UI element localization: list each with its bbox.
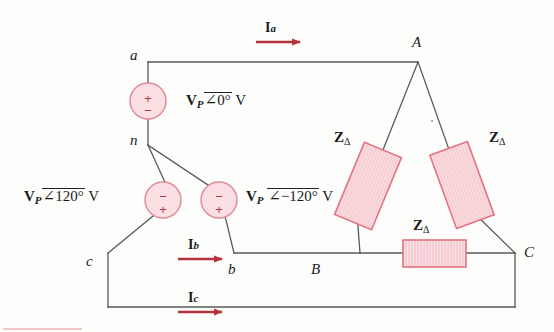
circuit-schematic-svg bbox=[0, 0, 554, 332]
wire-source-b-to-b bbox=[224, 212, 234, 253]
source-a-bottom-sign: − bbox=[141, 104, 155, 117]
source-b-value-label: VP ∠−120° V bbox=[246, 188, 333, 206]
source-a-sub: P bbox=[197, 98, 204, 110]
source-c-bottom-sign: + bbox=[156, 203, 170, 216]
source-b-angle: −120° bbox=[281, 188, 318, 204]
wire-A-to-Zca bbox=[418, 62, 452, 158]
source-b-v: V bbox=[246, 188, 257, 204]
z-delta-ab-label: ZΔ bbox=[334, 130, 350, 147]
current-c-sub: c bbox=[193, 292, 198, 304]
source-a-unit: V bbox=[235, 92, 246, 108]
vertex-label-A: A bbox=[412, 35, 421, 50]
source-b-unit: V bbox=[322, 188, 333, 204]
z-delta-bc-sub: Δ bbox=[423, 224, 429, 235]
node-label-a: a bbox=[130, 48, 138, 63]
current-b-sub: b bbox=[193, 239, 199, 251]
source-b-sub: P bbox=[257, 194, 264, 206]
vertex-label-B: B bbox=[311, 262, 320, 277]
source-c-v: V bbox=[24, 188, 35, 204]
z-delta-ca-sub: Δ bbox=[499, 136, 505, 147]
source-a-angle: 0° bbox=[217, 92, 231, 108]
z-delta-ab-symbol: Z bbox=[334, 129, 344, 145]
source-c-angle-glyph: ∠ bbox=[43, 188, 56, 204]
z-delta-ab-box[interactable] bbox=[335, 142, 402, 229]
stray-dot bbox=[431, 120, 433, 122]
source-b-angle-glyph: ∠ bbox=[268, 188, 281, 204]
z-delta-ca-symbol: Z bbox=[489, 129, 499, 145]
wire-A-to-Zab bbox=[379, 62, 418, 160]
source-b-bottom-sign: + bbox=[212, 203, 226, 216]
vertex-label-C: C bbox=[524, 245, 534, 260]
z-delta-ab-sub: Δ bbox=[344, 136, 350, 147]
source-a-angle-glyph: ∠ bbox=[205, 92, 218, 108]
z-delta-ca-label: ZΔ bbox=[489, 130, 505, 147]
current-c-label: Ic bbox=[188, 291, 198, 305]
node-label-b: b bbox=[228, 262, 236, 277]
source-c-angle: 120° bbox=[55, 188, 84, 204]
z-delta-bc-box[interactable] bbox=[403, 240, 466, 267]
z-delta-bc-symbol: Z bbox=[413, 217, 423, 233]
source-a-v: V bbox=[186, 92, 197, 108]
z-delta-bc-label: ZΔ bbox=[413, 218, 429, 235]
node-label-n: n bbox=[130, 133, 138, 148]
z-delta-ca-box[interactable] bbox=[430, 142, 494, 229]
figure-canvas: + − − + − + a n c b A B C Ia Ib Ic VP∠0°… bbox=[0, 0, 554, 332]
wire-source-c-to-c bbox=[108, 212, 158, 253]
source-c-unit: V bbox=[88, 188, 99, 204]
source-c-value-label: VP∠120° V bbox=[24, 188, 99, 206]
source-c-sub: P bbox=[35, 194, 42, 206]
source-a-value-label: VP∠0° V bbox=[186, 92, 246, 110]
current-a-sub: a bbox=[270, 22, 276, 34]
current-b-label: Ib bbox=[188, 238, 199, 252]
node-label-c: c bbox=[86, 254, 93, 269]
current-a-label: Ia bbox=[265, 21, 276, 35]
